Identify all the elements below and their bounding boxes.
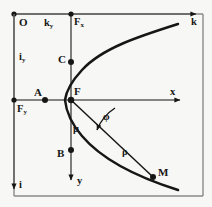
point-marker-C [68,59,74,65]
point-label-A: A [34,87,42,98]
radius-label-rho: ρ [122,147,128,158]
origin-label: O [19,17,28,28]
figure-canvas [0,0,212,207]
point-label-B: B [57,148,64,159]
point-label-M: M [158,167,168,178]
x-axis-label: x [170,87,175,98]
y-axis-label: y [77,176,82,187]
point-marker-F [68,97,74,103]
point-marker-A [42,97,48,103]
frame-axis-i-label: i [19,180,22,191]
parabola-figure: O ky k iy i Fx Fy x y A F C B M φ ρ μ [0,0,212,207]
x-axis [11,97,180,102]
angle-label-phi: φ [103,112,110,123]
point-label-C: C [58,54,66,65]
focus-horizontal-axis-label: Fy [17,104,27,115]
focus-vertical-line [68,11,73,180]
point-label-F: F [74,86,81,97]
frame-axis-k [11,11,196,16]
point-marker-M [150,174,156,180]
point-markers [42,59,156,180]
point-marker-B [68,147,74,153]
parameter-label-mu: μ [73,124,79,135]
frame-axis-k-label: k [191,17,197,28]
frame-i-sub-label: iy [19,52,25,63]
outer-frame [14,14,203,196]
frame-k-sub-label: ky [44,18,53,29]
focus-vertical-axis-label: Fx [74,17,84,28]
